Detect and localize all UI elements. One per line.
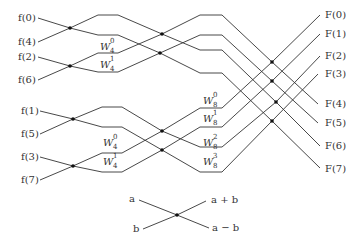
output-label-F1: F(1) — [325, 29, 346, 39]
output-label-F6: F(6) — [325, 141, 346, 151]
input-label-f7: f(7) — [21, 175, 39, 185]
twiddle-W8-2: W28 — [203, 138, 213, 148]
input-label-f4: f(4) — [18, 37, 36, 47]
legend-input-a: a — [129, 194, 135, 204]
legend-input-b: b — [133, 224, 139, 234]
twiddle-W8-0: W08 — [203, 96, 213, 106]
twiddle-W4-0-bottom: W04 — [103, 138, 113, 148]
input-label-f0: f(0) — [18, 13, 36, 23]
input-label-f1: f(1) — [21, 106, 39, 116]
output-label-F7: F(7) — [325, 164, 346, 174]
twiddle-W4-0-top: W04 — [100, 42, 110, 52]
output-label-F3: F(3) — [325, 69, 346, 79]
stage3-output-wires — [272, 15, 320, 168]
legend-output-sum: a + b — [211, 195, 238, 205]
stage2-top-wires — [160, 15, 276, 121]
twiddle-W8-1: W18 — [203, 114, 213, 124]
output-label-F5: F(5) — [325, 118, 346, 128]
input-label-f6: f(6) — [18, 75, 36, 85]
legend-butterfly — [139, 200, 209, 229]
twiddle-W4-1-top: W14 — [100, 60, 110, 70]
input-label-f3: f(3) — [21, 152, 39, 162]
stage1-butterfly-f1-f5 — [40, 107, 162, 150]
input-label-f2: f(2) — [18, 52, 36, 62]
fft-butterfly-diagram: f(0) f(4) f(2) f(6) f(1) f(5) f(3) f(7) … — [0, 0, 361, 243]
output-label-F2: F(2) — [325, 51, 346, 61]
legend-output-diff: a − b — [212, 223, 239, 233]
twiddle-W4-1-bottom: W14 — [103, 157, 113, 167]
input-label-f5: f(5) — [21, 129, 39, 139]
output-label-F4: F(4) — [325, 99, 346, 109]
stage2-bottom-wires — [162, 62, 276, 172]
butterfly-wires — [0, 0, 361, 243]
output-label-F0: F(0) — [325, 10, 346, 20]
twiddle-W8-3: W38 — [203, 157, 213, 167]
stage1-butterfly-f3-f7 — [40, 131, 162, 180]
